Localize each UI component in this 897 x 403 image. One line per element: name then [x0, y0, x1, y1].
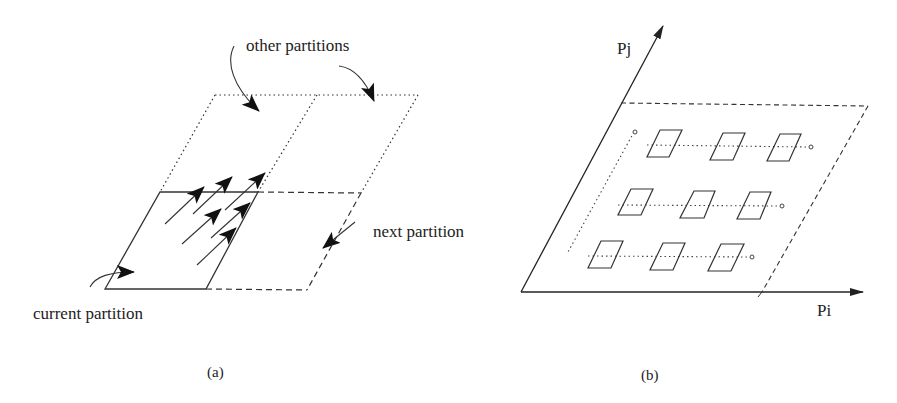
tile [767, 134, 801, 161]
current-partition-region [105, 192, 258, 289]
tile [710, 133, 745, 160]
boundary-tick [758, 292, 762, 297]
column-traversal-end-icon [633, 130, 637, 134]
other-partitions-pointers [231, 46, 374, 111]
pi-axis-label: Pi [817, 302, 831, 319]
row-traversal-lines [588, 145, 808, 257]
tile [650, 243, 685, 270]
panel-b-caption: (b) [641, 368, 659, 383]
dependence-arrows [165, 173, 265, 265]
tile [708, 244, 744, 271]
pj-axis-label: Pj [617, 40, 631, 57]
panel-a [90, 46, 418, 290]
other-partitions-region [160, 95, 418, 193]
row-traversal-end-icons [750, 145, 813, 259]
current-partition-label: current partition [33, 305, 143, 322]
tile [647, 130, 682, 157]
panel-a-caption: (a) [207, 365, 224, 380]
pj-axis [521, 26, 663, 292]
column-traversal-line [568, 132, 634, 252]
figure-canvas [0, 0, 897, 403]
panel-b [521, 26, 868, 297]
current-partition-pointer [90, 272, 134, 287]
next-partition-label: next partition [373, 223, 464, 240]
tile [618, 189, 653, 215]
other-partitions-label: other partitions [246, 37, 349, 54]
tiles [588, 130, 801, 271]
tile [680, 191, 715, 218]
iteration-space-boundary [621, 103, 868, 292]
next-partition-pointer [323, 222, 355, 248]
tile [588, 241, 623, 268]
